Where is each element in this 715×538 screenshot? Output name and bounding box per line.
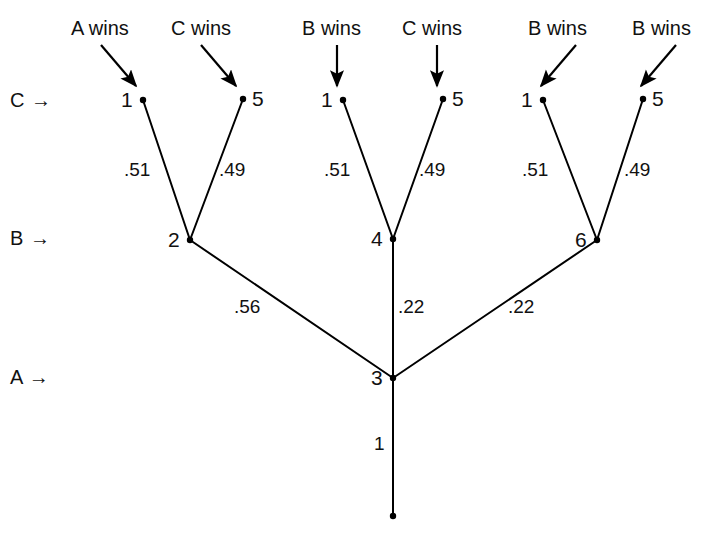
edge-weight-edge-2-to-3: .56 [234,297,260,316]
edge-weight-edge-6-to-3: .22 [508,297,534,316]
arrow-b-wins-2 [541,45,576,86]
node-c-mid-5-label: 5 [452,88,464,109]
node-b-mid-4-dot [390,236,396,242]
node-c-mid-5-dot [440,96,446,102]
node-b-mid-4-label: 4 [371,228,383,249]
node-c-left-5-label: 5 [252,88,264,109]
edge-weight-edge-5-to-4-mid: .49 [419,160,445,179]
row-label-a: A → [10,367,49,387]
node-c-left-1-dot [140,97,146,103]
edge-2-to-3 [190,240,393,378]
node-b-left-2-label: 2 [168,229,180,250]
node-a-root-3-label: 3 [371,367,383,388]
node-c-mid-1-dot [340,97,346,103]
node-b-right-6-dot [594,237,600,243]
node-c-left-1-label: 1 [121,89,133,110]
tree-diagram-canvas: .51.49.51.49.51.49.56.22.2211515152463A … [0,0,715,538]
edge-weight-edge-3-to-root: 1 [374,434,385,453]
edge-weight-edge-1-to-4-mid: .51 [324,160,350,179]
tree-graphics [0,0,715,538]
edges-layer [143,99,643,516]
edge-weight-edge-4-to-3: .22 [398,297,424,316]
annotation-arrows-layer [101,45,676,86]
arrow-a-wins [101,45,136,86]
node-c-right-5-label: 5 [652,88,664,109]
edge-1-to-4-mid [343,100,393,239]
edge-weight-edge-5-to-2-left: .49 [219,160,245,179]
node-c-right-1-label: 1 [521,89,533,110]
caption-0: A wins [71,18,129,38]
node-c-mid-1-label: 1 [321,89,333,110]
caption-4: B wins [528,18,587,38]
edge-weight-edge-1-to-6-right: .51 [522,160,548,179]
row-label-b: B → [10,228,50,248]
caption-1: C wins [171,18,231,38]
node-c-right-5-dot [640,96,646,102]
edge-weight-edge-1-to-2-left: .51 [124,160,150,179]
edge-1-to-6-right [543,100,597,240]
row-label-c: C → [10,90,52,110]
node-c-left-5-dot [240,96,246,102]
node-c-right-1-dot [540,97,546,103]
edge-weight-edge-5-to-6-right: .49 [624,160,650,179]
caption-3: C wins [402,18,462,38]
node-a-root-3-dot [390,375,396,381]
node-root-tip-dot [390,513,396,519]
caption-2: B wins [302,18,361,38]
arrow-c-wins-1 [201,45,236,86]
caption-5: B wins [632,18,691,38]
arrow-b-wins-3 [641,45,676,86]
node-b-right-6-label: 6 [575,229,587,250]
node-b-left-2-dot [187,237,193,243]
